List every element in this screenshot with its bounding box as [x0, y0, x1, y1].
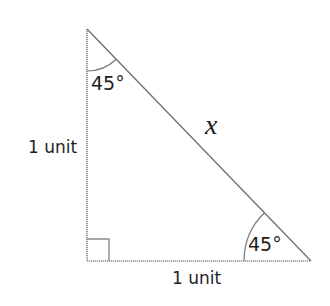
- bottom-right-angle-label: 45°: [248, 233, 282, 255]
- bottom-side-label: 1 unit: [172, 268, 221, 288]
- triangle-diagram: 45° 45° 1 unit 1 unit x: [0, 0, 330, 306]
- left-side-label: 1 unit: [28, 137, 77, 157]
- top-angle-label: 45°: [91, 72, 125, 94]
- right-angle-marker: [87, 239, 109, 261]
- hypotenuse-label: x: [204, 109, 218, 140]
- top-angle-arc: [87, 59, 116, 71]
- hypotenuse: [87, 29, 311, 261]
